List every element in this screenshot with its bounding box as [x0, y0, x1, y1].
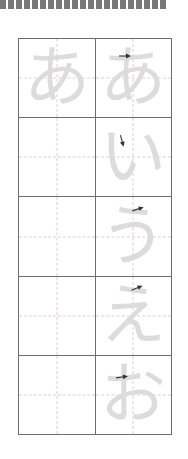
practice-cell[interactable]	[19, 277, 96, 355]
ruler-dash	[96, 0, 102, 9]
stroke-order-arrow-icon	[129, 202, 145, 216]
practice-cell[interactable]	[19, 197, 96, 275]
horizontal-guide-line	[19, 78, 95, 79]
practice-row-u: う	[19, 197, 171, 276]
practice-row-e: え	[19, 277, 171, 356]
horizontal-guide-line	[19, 315, 95, 316]
ruler-dash	[136, 0, 142, 9]
horizontal-guide-line	[19, 236, 95, 237]
dashed-ruler-strip	[0, 0, 188, 9]
ruler-dash	[144, 0, 150, 9]
hiragana-practice-grid: ああいうえお	[18, 38, 172, 435]
horizontal-guide-line	[96, 394, 172, 395]
practice-cell[interactable]: あ	[96, 39, 172, 117]
practice-cell[interactable]: う	[96, 197, 172, 275]
ruler-dash	[40, 0, 46, 9]
ruler-dash	[64, 0, 70, 9]
practice-cell[interactable]	[19, 118, 96, 196]
ruler-dash	[32, 0, 38, 9]
ruler-dash	[128, 0, 134, 9]
practice-row-o: お	[19, 356, 171, 434]
ruler-dash	[80, 0, 86, 9]
practice-cell[interactable]: え	[96, 277, 172, 355]
horizontal-guide-line	[96, 157, 172, 158]
ruler-dash	[112, 0, 118, 9]
ruler-dash	[56, 0, 62, 9]
ruler-dash	[160, 0, 166, 9]
stroke-order-arrow-icon	[114, 371, 129, 383]
horizontal-guide-line	[96, 236, 172, 237]
ruler-dash	[48, 0, 54, 9]
horizontal-guide-line	[96, 78, 172, 79]
practice-cell[interactable]: い	[96, 118, 172, 196]
horizontal-guide-line	[96, 315, 172, 316]
practice-row-a: ああ	[19, 39, 171, 118]
ruler-dash	[0, 0, 6, 9]
horizontal-guide-line	[19, 157, 95, 158]
ruler-dash	[88, 0, 94, 9]
ruler-dash	[104, 0, 110, 9]
ruler-dash	[152, 0, 158, 9]
practice-cell[interactable]: あ	[19, 39, 96, 117]
stroke-order-arrow-icon	[115, 133, 128, 149]
ruler-dash	[16, 0, 22, 9]
horizontal-guide-line	[19, 394, 95, 395]
practice-cell[interactable]	[19, 356, 96, 434]
ruler-dash	[72, 0, 78, 9]
ruler-dash	[8, 0, 14, 9]
practice-cell[interactable]: お	[96, 356, 172, 434]
stroke-order-arrow-icon	[128, 280, 145, 295]
practice-row-i: い	[19, 118, 171, 197]
ruler-dash	[24, 0, 30, 9]
stroke-order-arrow-icon	[118, 51, 132, 61]
ruler-dash	[120, 0, 126, 9]
